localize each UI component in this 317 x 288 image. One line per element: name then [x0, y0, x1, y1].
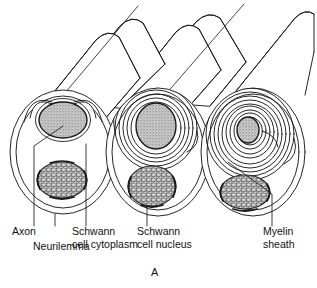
- nucleus-middle: [128, 166, 176, 207]
- nucleus-left: [37, 161, 87, 199]
- label-axon-line1: Axon: [12, 225, 36, 237]
- fiber-right: [201, 88, 305, 216]
- label-schwann-cytoplasm-line1: Schwann: [72, 225, 115, 237]
- nerve-fiber-diagram: Axon Neurilemma Schwann cell cytoplasm S…: [0, 0, 317, 288]
- label-myelin-sheath: Myelin sheath: [263, 225, 295, 250]
- fiber-left: [10, 90, 116, 214]
- axon-left: [36, 99, 91, 142]
- label-schwann-nucleus-line2: cell nucleus: [137, 238, 192, 250]
- panel-label: A: [151, 266, 158, 278]
- label-schwann-cell-nucleus: Schwann cell nucleus: [137, 225, 192, 250]
- axon-middle: [136, 103, 176, 149]
- label-axon: Axon: [12, 225, 36, 238]
- cylinder-shaft-right: [232, 12, 314, 96]
- label-schwann-cell-cytoplasm: Schwann cell cytoplasm: [72, 225, 138, 250]
- label-schwann-nucleus-line1: Schwann: [137, 225, 180, 237]
- label-myelin-line2: sheath: [263, 238, 295, 250]
- axon-right: [237, 117, 259, 143]
- label-myelin-line1: Myelin: [263, 225, 293, 237]
- label-schwann-cytoplasm-line2: cell cytoplasm: [72, 238, 138, 250]
